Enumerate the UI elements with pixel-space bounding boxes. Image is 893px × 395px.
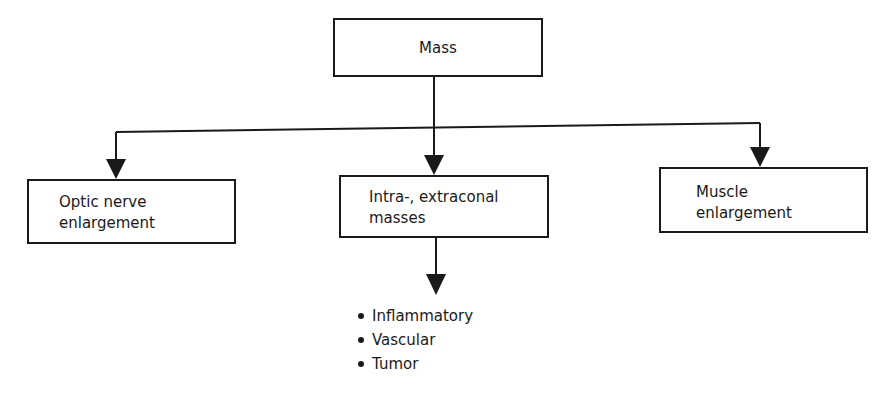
bullet-icon (358, 337, 364, 343)
list-item: Tumor (358, 352, 473, 376)
subtype-label: Vascular (372, 331, 435, 349)
node-intra-extraconal-masses: Intra-, extraconal masses (339, 175, 549, 238)
intra-subtypes-list: Inflammatory Vascular Tumor (358, 304, 473, 376)
arrowhead-subtypes (426, 274, 446, 295)
list-item: Vascular (358, 328, 473, 352)
bullet-icon (358, 361, 364, 367)
node-mass: Mass (333, 18, 543, 77)
node-intra-label-line2: masses (369, 208, 499, 229)
node-optic-label-line2: enlargement (59, 213, 155, 234)
arrowhead-intra (424, 155, 444, 175)
arrowhead-optic (106, 159, 126, 179)
node-mass-label: Mass (335, 38, 541, 59)
subtype-label: Inflammatory (372, 307, 473, 325)
arrowhead-muscle (750, 147, 770, 167)
node-optic-label-line1: Optic nerve (59, 192, 155, 213)
node-muscle-label-line2: enlargement (696, 203, 792, 224)
bullet-icon (358, 313, 364, 319)
node-intra-label-line1: Intra-, extraconal (369, 187, 499, 208)
subtype-label: Tumor (372, 355, 418, 373)
node-muscle-enlargement: Muscle enlargement (659, 167, 868, 233)
list-item: Inflammatory (358, 304, 473, 328)
node-muscle-label-line1: Muscle (696, 182, 792, 203)
node-optic-nerve-enlargement: Optic nerve enlargement (27, 179, 236, 244)
